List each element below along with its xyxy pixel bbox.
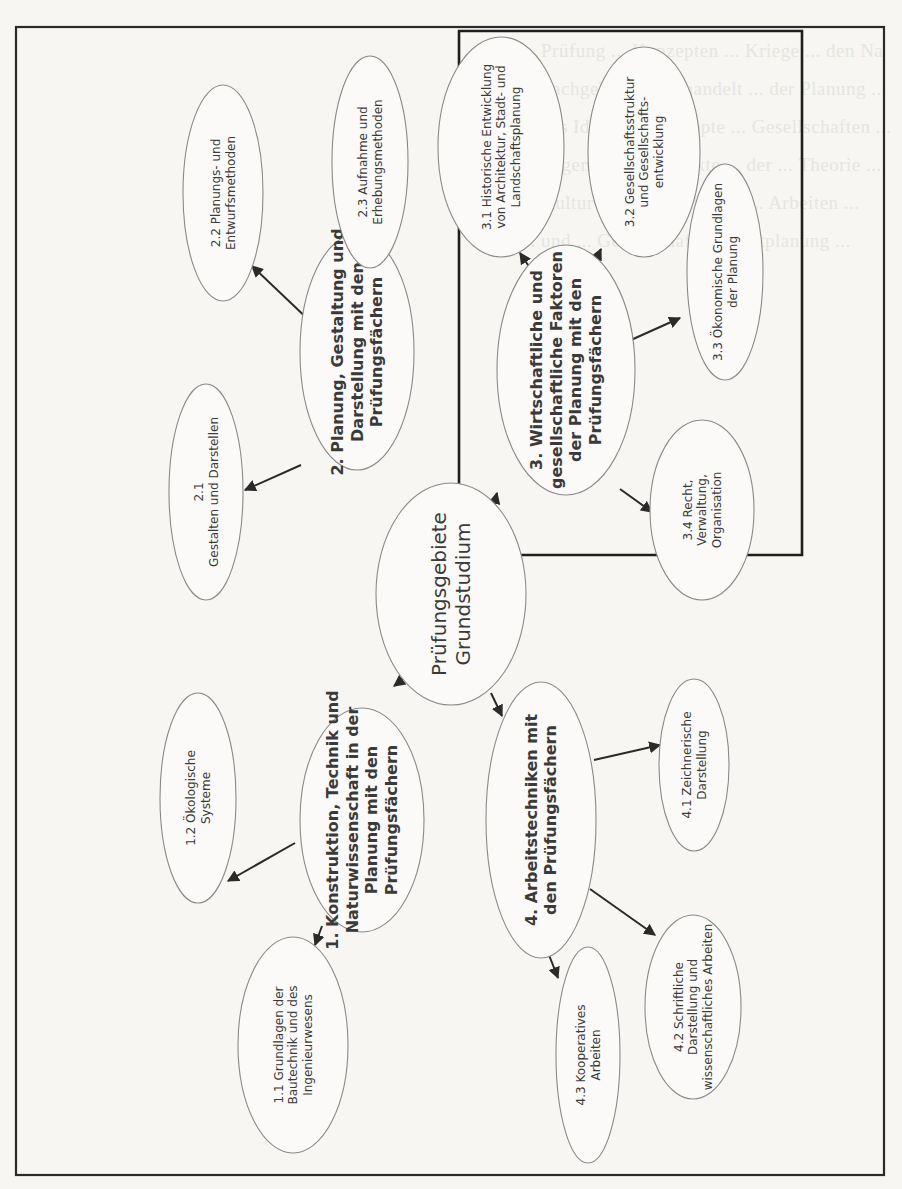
node-label-line: entwicklung bbox=[652, 116, 666, 189]
arrow-n1-to-n1_2 bbox=[228, 843, 295, 881]
node-label-line: Organisation bbox=[710, 472, 724, 549]
node-label-line: und Gesellschafts- bbox=[637, 97, 651, 208]
node-n4_3: 4.3 KooperativesArbeiten bbox=[556, 947, 620, 1163]
node-label-line: Arbeiten bbox=[589, 1029, 603, 1080]
node-n2_1: 2.1Gestalten und Darstellen bbox=[169, 384, 243, 600]
node-label-line: 4.1 Zeichnerische bbox=[680, 711, 694, 818]
node-label-line: 1.2 Ökologische bbox=[182, 750, 198, 846]
arrow-n3-to-n3_4 bbox=[620, 489, 652, 512]
node-n4_2: 4.2 SchriftlicheDarstellung undwissensch… bbox=[645, 915, 741, 1099]
node-root: PrüfungsgebieteGrundstudium bbox=[376, 483, 526, 705]
node-n2_3: 2.3 Aufnahme undErhebungsmethoden bbox=[332, 56, 408, 268]
arrow-n4-to-n4_2 bbox=[590, 889, 655, 935]
node-label-line: Prüfungsgebiete bbox=[427, 512, 451, 676]
node-label-line: Grundstudium bbox=[451, 522, 475, 665]
node-label-line: 3. Wirtschaftliche und bbox=[527, 270, 546, 470]
node-label-line: der Planung bbox=[726, 236, 740, 308]
node-n3: 3. Wirtschaftliche undgesellschaftliche … bbox=[497, 245, 635, 495]
node-label-line: 1.1 Grundlagen der bbox=[272, 986, 286, 1103]
node-label-line: Systeme bbox=[199, 772, 213, 824]
node-label-line: von Architektur, Stadt- und bbox=[494, 65, 508, 228]
node-label-line: wissenschaftliches Arbeiten bbox=[701, 924, 715, 1091]
node-n3_3: 3.3 Ökonomische Grundlagender Planung bbox=[687, 164, 763, 380]
node-label-line: Prüfungsfächern bbox=[586, 295, 605, 446]
node-label-line: 4. Arbeitstechniken mit bbox=[522, 714, 541, 926]
node-label-line: 4.3 Kooperatives bbox=[574, 1005, 588, 1106]
node-label-line: 1. Konstruktion, Technik und bbox=[323, 690, 342, 949]
node-label-line: 2.1 bbox=[192, 482, 206, 501]
node-label-line: Erhebungsmethoden bbox=[371, 99, 385, 224]
diagram-page: ... Prüfung ... Konzepten ... Kriege ...… bbox=[0, 0, 902, 1189]
node-label-line: Darstellung mit den bbox=[348, 262, 367, 442]
node-label-line: 3.1 Historische Entwicklung bbox=[480, 64, 494, 230]
node-n3_1: 3.1 Historische Entwicklungvon Architekt… bbox=[438, 37, 564, 257]
arrow-n2-to-n2_1 bbox=[245, 465, 301, 490]
arrow-root-to-n4 bbox=[491, 693, 502, 716]
nodes-layer: PrüfungsgebieteGrundstudium1. Konstrukti… bbox=[160, 37, 763, 1163]
node-n3_4: 3.4 Recht,Verwaltung,Organisation bbox=[650, 420, 754, 600]
node-n3_2: 3.2 Gesellschaftsstrukturund Gesellschaf… bbox=[588, 47, 700, 257]
node-label-line: Entwurfsmethoden bbox=[224, 136, 238, 250]
node-label-line: Naturwissenschaft in der bbox=[343, 707, 362, 934]
node-label-line: Darstellung bbox=[695, 730, 709, 799]
node-label-line: 2.3 Aufnahme und bbox=[356, 106, 370, 217]
node-label-line: Ingenieurwesens bbox=[301, 994, 315, 1096]
node-label-line: Prüfungsfächern bbox=[382, 745, 401, 896]
node-n2: 2. Planung, Gestaltung undDarstellung mi… bbox=[300, 228, 414, 475]
node-label-line: Gestalten und Darstellen bbox=[207, 417, 221, 567]
node-label-line: Landschaftsplanung bbox=[509, 87, 523, 208]
node-label-line: Planung mit den bbox=[362, 746, 381, 894]
node-label-line: Bautechnik und des bbox=[286, 985, 300, 1104]
arrow-n1-to-n1_1 bbox=[315, 926, 322, 945]
node-label-line: 4.2 Schriftliche bbox=[672, 962, 686, 1052]
node-label-line: Darstellung und bbox=[686, 959, 700, 1055]
node-label-line: 2.2 Planungs- und bbox=[209, 139, 223, 247]
node-label-line: 3.3 Ökonomische Grundlagen bbox=[709, 183, 725, 361]
node-label-line: 3.4 Recht, bbox=[681, 480, 695, 541]
node-n4: 4. Arbeitstechniken mitden Prüfungsfäche… bbox=[486, 682, 596, 958]
node-label-line: gesellschaftliche Faktoren bbox=[547, 251, 566, 489]
node-label-line: Prüfungsfächern bbox=[367, 277, 386, 428]
node-label-line: der Planung mit den bbox=[566, 278, 585, 462]
node-n4_1: 4.1 ZeichnerischeDarstellung bbox=[659, 679, 729, 851]
node-label-line: den Prüfungsfächern bbox=[541, 725, 560, 915]
mind-map-diagram: PrüfungsgebieteGrundstudium1. Konstrukti… bbox=[0, 0, 902, 1189]
node-label-line: Verwaltung, bbox=[695, 474, 709, 545]
arrow-n4-to-n4_1 bbox=[594, 745, 660, 760]
arrow-n4-to-n4_3 bbox=[549, 955, 558, 978]
node-n1: 1. Konstruktion, Technik undNaturwissens… bbox=[300, 690, 424, 949]
node-n1_2: 1.2 ÖkologischeSysteme bbox=[160, 693, 236, 903]
node-n2_2: 2.2 Planungs- undEntwurfsmethoden bbox=[183, 85, 263, 301]
node-n1_1: 1.1 Grundlagen derBautechnik und desInge… bbox=[238, 937, 348, 1153]
node-label-line: 2. Planung, Gestaltung und bbox=[328, 228, 347, 475]
node-label-line: 3.2 Gesellschaftsstruktur bbox=[623, 77, 637, 227]
